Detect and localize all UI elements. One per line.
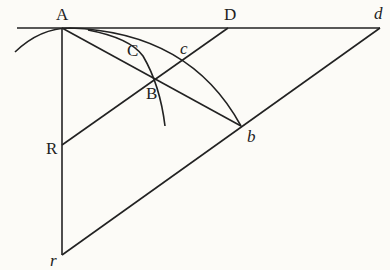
label-b: b bbox=[247, 128, 256, 145]
line-r-d bbox=[62, 28, 380, 255]
label-B: B bbox=[146, 85, 157, 102]
label-D: D bbox=[224, 6, 236, 23]
label-r: r bbox=[50, 252, 57, 269]
label-c: c bbox=[180, 40, 188, 57]
label-R: R bbox=[46, 140, 57, 157]
label-C: C bbox=[127, 42, 138, 59]
line-R-D bbox=[62, 28, 228, 145]
diagram-canvas bbox=[0, 0, 390, 270]
label-d: d bbox=[374, 5, 383, 22]
label-A: A bbox=[56, 6, 68, 23]
line-A-b bbox=[62, 28, 241, 126]
